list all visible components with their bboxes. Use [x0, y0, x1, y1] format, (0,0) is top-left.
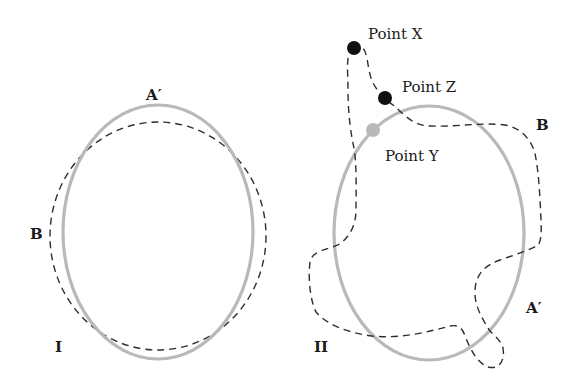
diagram-canvas: A′ B I Point X Point Z Point Y B A′ II: [0, 0, 582, 387]
curve-a-prime-panel-i: [63, 105, 253, 359]
label-point-y: Point Y: [385, 147, 440, 165]
label-a-prime-panel-i: A′: [145, 86, 162, 104]
panel-i: A′ B I: [30, 86, 266, 359]
label-b-panel-i: B: [30, 225, 43, 243]
panel-ii: Point X Point Z Point Y B A′ II: [309, 25, 548, 368]
point-y-marker: [366, 123, 380, 137]
point-x-marker: [347, 41, 361, 55]
label-b-panel-ii: B: [536, 116, 549, 134]
panel-label-i: I: [55, 338, 62, 356]
label-point-x: Point X: [368, 25, 423, 43]
label-point-z: Point Z: [402, 78, 456, 96]
label-a-prime-panel-ii: A′: [525, 299, 542, 317]
panel-label-ii: II: [314, 338, 328, 356]
point-z-marker: [378, 91, 392, 105]
curve-a-prime-panel-ii: [334, 106, 524, 360]
